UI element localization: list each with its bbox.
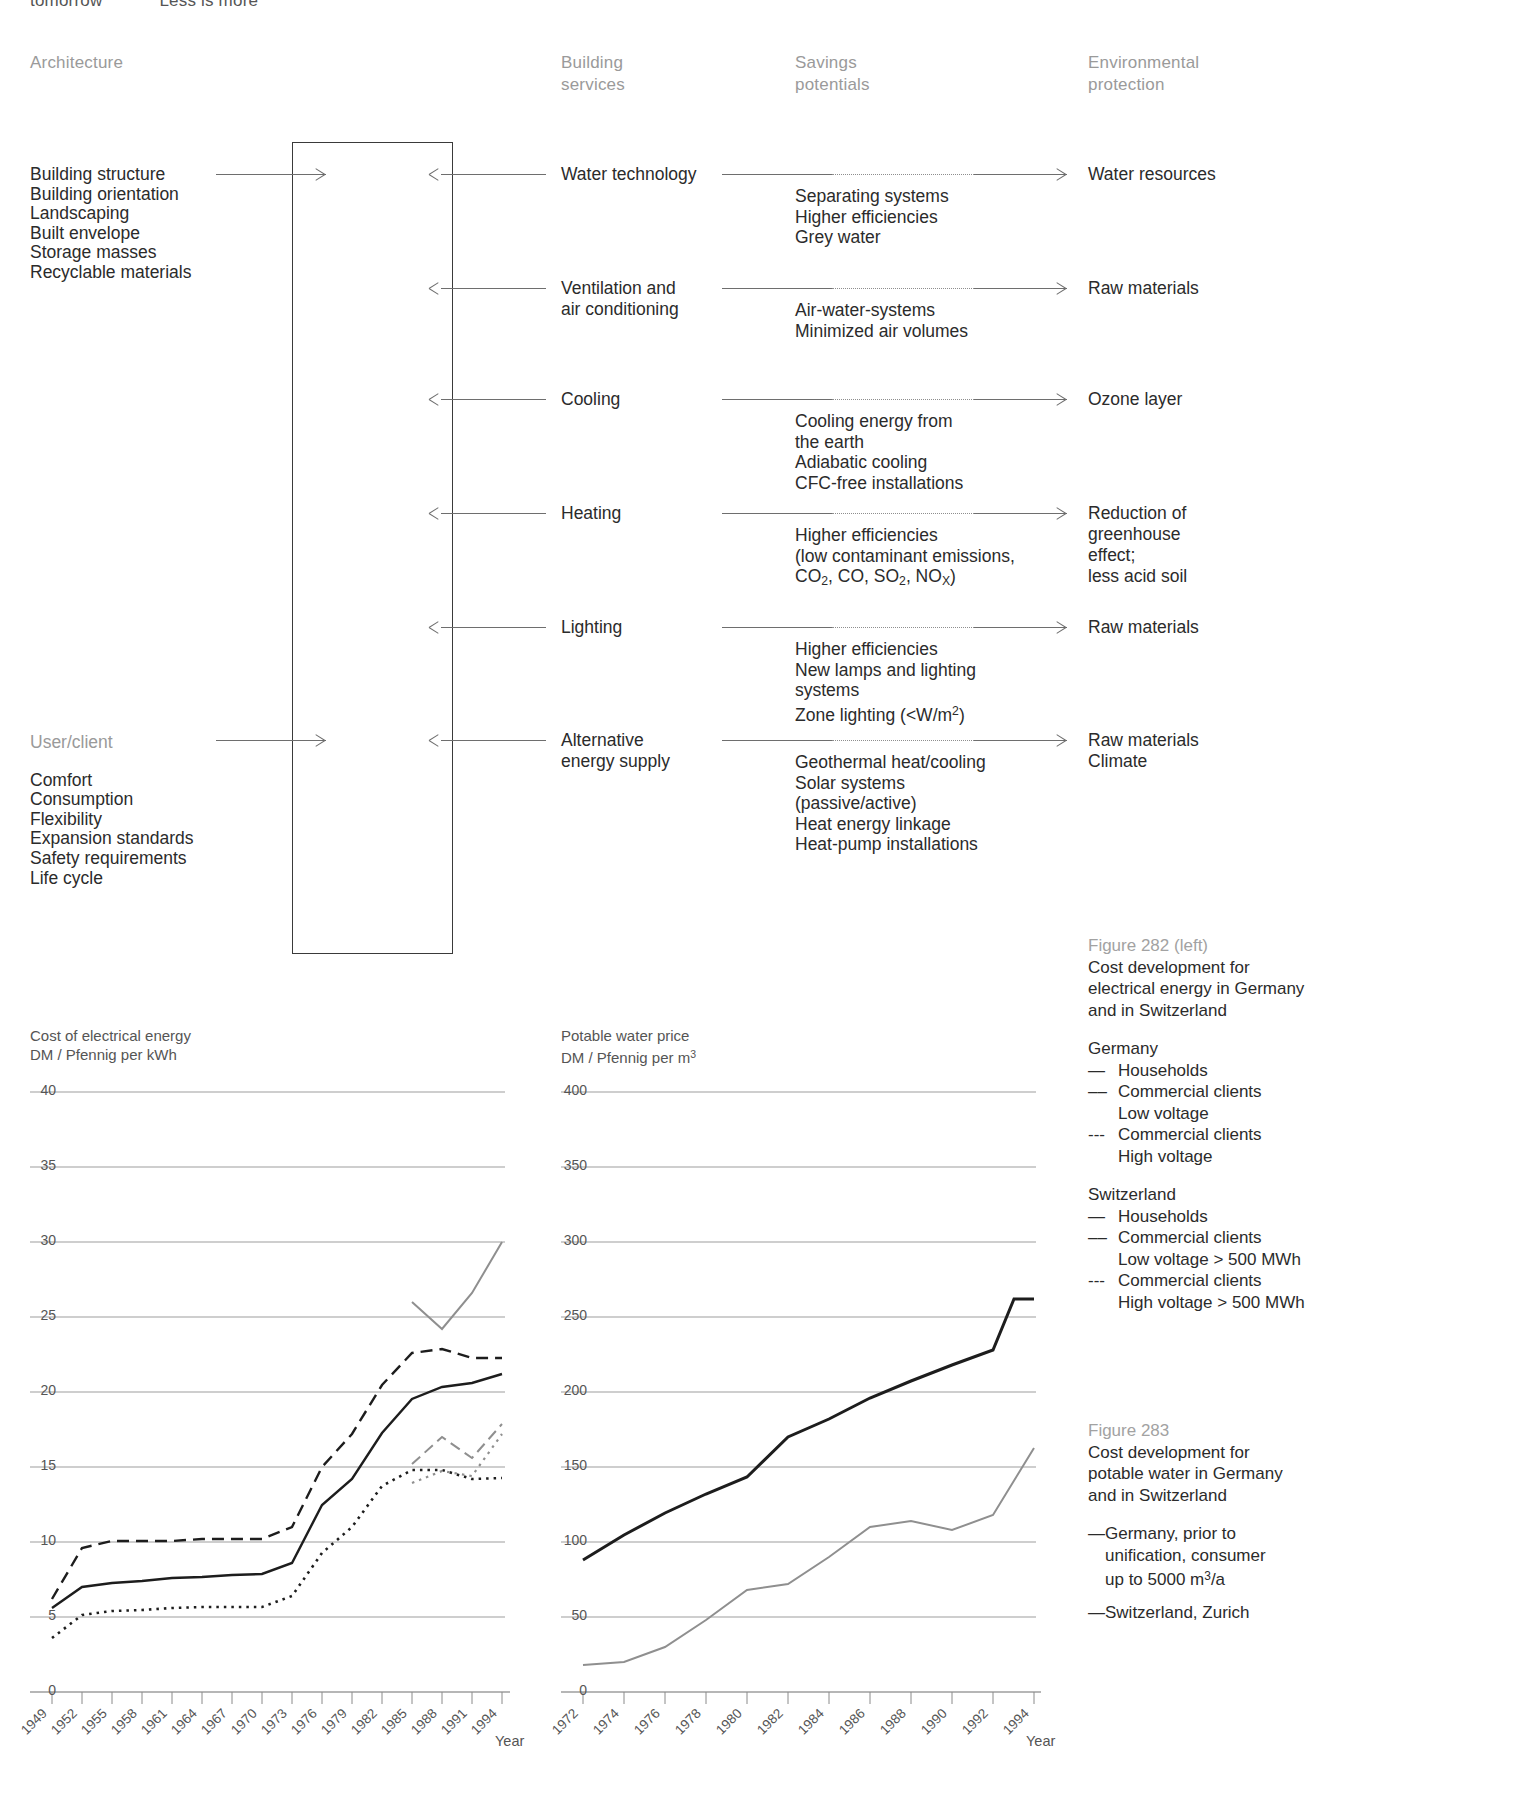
environment-item: less acid soil [1088, 566, 1187, 587]
figure-282-number-suffix: (left) [1174, 936, 1208, 955]
arrow-head-greenhouse-reduction [1054, 507, 1067, 520]
row-line-water-technology [441, 174, 546, 175]
chart-left-ytick: 40 [22, 1082, 56, 1098]
legend-group-title: Germany [1088, 1038, 1388, 1060]
environment-label-greenhouse-reduction: Reduction of greenhouse effect; less aci… [1088, 503, 1187, 587]
user-client-item: Expansion standards [30, 829, 280, 849]
arrow-line-architecture [216, 174, 326, 175]
chart-right-ytick: 150 [553, 1457, 587, 1473]
chart-left-ytick: 5 [22, 1607, 56, 1623]
chart-right-ytick: 200 [553, 1382, 587, 1398]
legend-group-title: Switzerland [1088, 1184, 1388, 1206]
savings-item: systems [795, 680, 976, 701]
page-header: tomorrow Less is more [30, 0, 310, 11]
environment-label-raw-materials-climate: Raw materials Climate [1088, 730, 1199, 772]
chart-left-ytick: 20 [22, 1382, 56, 1398]
user-client-item: Flexibility [30, 810, 280, 830]
legend-entry-germany-water: — Germany, prior to unification, consume… [1088, 1523, 1388, 1591]
user-client-item: Safety requirements [30, 849, 280, 869]
figure-282-title: Cost development for electrical energy i… [1088, 957, 1388, 1022]
savings-item: Higher efficiencies [795, 525, 1015, 546]
legend-entry: ---Commercial clients [1088, 1124, 1388, 1146]
user-client-title: User/client [30, 733, 280, 753]
legend-label: Households [1118, 1207, 1208, 1226]
savings-list-cooling: Cooling energy from the earth Adiabatic … [795, 411, 963, 493]
architecture-item: Building orientation [30, 185, 280, 205]
legend-label: Commercial clients [1118, 1125, 1262, 1144]
service-label-heating: Heating [561, 503, 621, 524]
arrow-head-cooling [428, 393, 441, 406]
chart-left-series-switzerland-households [412, 1242, 502, 1329]
arrow-line-user-client [216, 740, 326, 741]
environment-label-water-resources: Water resources [1088, 164, 1216, 185]
legend-label: Commercial clients [1118, 1271, 1262, 1290]
arrow-head-heating [428, 507, 441, 520]
column-heading-building-services: Building services [561, 52, 625, 96]
service-label-alternative-energy: Alternative energy supply [561, 730, 670, 772]
user-client-item: Consumption [30, 790, 280, 810]
legend-sublabel: Low voltage > 500 MWh [1088, 1249, 1388, 1271]
environment-label-raw-materials-ventilation: Raw materials [1088, 278, 1199, 299]
page-header-left: tomorrow [30, 0, 102, 10]
savings-connector-water-technology [722, 168, 1067, 180]
figure-282-group-germany: Germany —Households ––Commercial clients… [1088, 1038, 1388, 1167]
column-heading-savings-potentials: Savings potentials [795, 52, 870, 96]
legend-entry: ––Commercial clients [1088, 1227, 1388, 1249]
architecture-item: Storage masses [30, 243, 280, 263]
chart-left-ytick: 35 [22, 1157, 56, 1173]
chart-right-xaxis-title: Year [1026, 1733, 1055, 1749]
figure-283-number: Figure 283 [1088, 1420, 1388, 1442]
chart-right-ytick: 250 [553, 1307, 587, 1323]
chart-left-title: Cost of electrical energy [30, 1026, 191, 1045]
legend-sublabel: High voltage [1088, 1146, 1388, 1168]
arrow-head-lighting [428, 621, 441, 634]
legend-entry: ––Commercial clients [1088, 1081, 1388, 1103]
savings-item: Higher efficiencies [795, 207, 949, 228]
arrow-head-architecture [313, 168, 326, 181]
savings-list-alternative-energy: Geothermal heat/cooling Solar systems (p… [795, 752, 986, 855]
savings-item: Geothermal heat/cooling [795, 752, 986, 773]
legend-dash-dotted: --- [1088, 1124, 1118, 1146]
architecture-item: Landscaping [30, 204, 280, 224]
environment-label-ozone-layer: Ozone layer [1088, 389, 1182, 410]
legend-entry: —Households [1088, 1206, 1388, 1228]
chart-left-xticks [52, 1692, 502, 1704]
figure-282-group-switzerland: Switzerland —Households ––Commercial cli… [1088, 1184, 1388, 1313]
legend-entry: —Households [1088, 1060, 1388, 1082]
arrow-head-raw-materials-climate [1054, 734, 1067, 747]
environment-item: Raw materials [1088, 278, 1199, 299]
architecture-group: Building structure Building orientation … [30, 165, 280, 283]
chart-right-ytick: 300 [553, 1232, 587, 1248]
savings-item: Adiabatic cooling [795, 452, 963, 473]
legend-sublabel: Low voltage [1088, 1103, 1388, 1125]
row-line-alternative-energy [441, 740, 546, 741]
chart-right-xticks [583, 1692, 1034, 1704]
savings-item: Heat energy linkage [795, 814, 986, 835]
figure-282-caption: Figure 282 (left) Cost development for e… [1088, 935, 1388, 1313]
legend-dash-dotted: --- [1088, 1270, 1118, 1292]
user-client-item: Life cycle [30, 869, 280, 889]
user-client-group: User/client Comfort Consumption Flexibil… [30, 733, 280, 888]
savings-item: New lamps and lighting [795, 660, 976, 681]
savings-connector-ventilation [722, 282, 1067, 294]
savings-connector-cooling [722, 393, 1067, 405]
chart-left-ytick: 25 [22, 1307, 56, 1323]
savings-item: Higher efficiencies [795, 639, 976, 660]
arrow-head-water-resources [1054, 168, 1067, 181]
legend-label: Germany, prior to unification, consumer … [1105, 1523, 1266, 1591]
row-line-heating [441, 513, 546, 514]
chart-left-ytick: 30 [22, 1232, 56, 1248]
legend-dash-solid: — [1088, 1060, 1118, 1082]
environment-item: Reduction of [1088, 503, 1187, 524]
savings-item-formula: CO2, CO, SO2, NOX) [795, 566, 1015, 591]
chart-right-ytick: 400 [553, 1082, 587, 1098]
arrow-head-user-client [313, 734, 326, 747]
service-label-water-technology: Water technology [561, 164, 697, 185]
savings-item: (low contaminant emissions, [795, 546, 1015, 567]
savings-list-lighting: Higher efficiencies New lamps and lighti… [795, 639, 976, 725]
legend-entry-switzerland-water: — Switzerland, Zurich [1088, 1602, 1388, 1624]
environment-item: Raw materials [1088, 730, 1199, 751]
legend-label: Commercial clients [1118, 1228, 1262, 1247]
savings-item: CFC-free installations [795, 473, 963, 494]
savings-item: Separating systems [795, 186, 949, 207]
